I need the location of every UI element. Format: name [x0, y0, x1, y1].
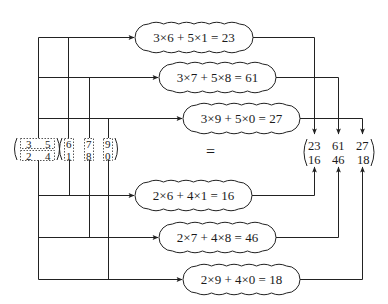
- bubble-label: 2×6 + 4×1 = 16: [153, 188, 235, 203]
- result-matrix: 23 61 27 16 46 18: [304, 139, 374, 167]
- right-paren-icon: [115, 138, 118, 160]
- b12: 7: [86, 138, 92, 150]
- equals-sign: =: [206, 143, 215, 160]
- a11: 3: [26, 138, 32, 150]
- c22: 46: [332, 153, 345, 167]
- b21: 1: [66, 150, 72, 162]
- bubble-label: 3×9 + 5×0 = 27: [201, 111, 283, 126]
- bubble-r2c3: 2×9 + 4×0 = 18: [183, 264, 300, 295]
- bubble-label: 2×9 + 4×0 = 18: [201, 272, 282, 287]
- a22: 4: [45, 150, 51, 162]
- left-paren-icon: [60, 138, 63, 160]
- diagram-svg: 3×6 + 5×1 = 233×7 + 5×8 = 613×9 + 5×0 = …: [0, 0, 388, 304]
- b22: 8: [86, 150, 92, 162]
- bubble-r2c1: 2×6 + 4×1 = 16: [135, 180, 252, 211]
- computation-bubbles: 3×6 + 5×1 = 233×7 + 5×8 = 613×9 + 5×0 = …: [135, 22, 300, 295]
- bubble-r1c2: 3×7 + 5×8 = 61: [159, 62, 276, 93]
- right-matrix: 6 7 9 1 8 0: [60, 138, 118, 162]
- c12: 61: [332, 139, 345, 153]
- bubble-r1c3: 3×9 + 5×0 = 27: [183, 103, 300, 134]
- left-paren-icon: [304, 139, 307, 166]
- bubble-label: 3×7 + 5×8 = 61: [177, 70, 258, 85]
- c13: 27: [356, 139, 369, 153]
- b11: 6: [66, 138, 72, 150]
- a21: 2: [26, 150, 32, 162]
- c21: 16: [308, 153, 321, 167]
- left-matrix: 3 5 2 4: [15, 138, 60, 162]
- b13: 9: [105, 138, 111, 150]
- bubble-label: 2×7 + 4×8 = 46: [177, 230, 259, 245]
- c11: 23: [308, 139, 321, 153]
- c23: 18: [357, 153, 370, 167]
- bubble-label: 3×6 + 5×1 = 23: [153, 30, 234, 45]
- bubble-r1c1: 3×6 + 5×1 = 23: [135, 22, 253, 53]
- right-paren-icon: [371, 139, 374, 166]
- left-paren-icon: [15, 138, 18, 160]
- matrix-multiplication-diagram: 3×6 + 5×1 = 233×7 + 5×8 = 613×9 + 5×0 = …: [0, 0, 388, 304]
- a12: 5: [45, 138, 51, 150]
- bubble-r2c2: 2×7 + 4×8 = 46: [159, 222, 276, 253]
- b23: 0: [105, 150, 111, 162]
